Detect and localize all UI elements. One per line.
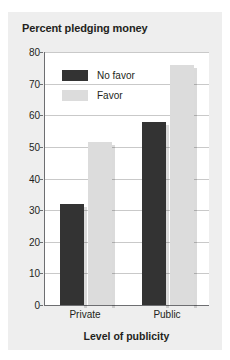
- y-tick-label: 10: [29, 268, 40, 279]
- bar-private-favor: [88, 142, 112, 305]
- bar-public-no-favor: [142, 122, 166, 305]
- legend-label-no-favor: No favor: [97, 70, 135, 81]
- bar-shadow: [194, 68, 197, 308]
- legend-item: Favor: [62, 86, 154, 104]
- legend-item: No favor: [62, 66, 154, 84]
- bar-shadow: [112, 145, 115, 308]
- y-tick-label: 50: [29, 141, 40, 152]
- x-tick-label: Public: [153, 309, 180, 320]
- y-tick-mark: [40, 273, 43, 274]
- x-tick-label: Private: [69, 309, 100, 320]
- y-tick-mark: [40, 179, 43, 180]
- bar-shadow: [166, 125, 169, 308]
- legend-label-favor: Favor: [97, 90, 123, 101]
- legend-swatch-favor: [62, 90, 88, 101]
- y-tick-mark: [40, 115, 43, 116]
- y-tick-label: 70: [29, 78, 40, 89]
- y-tick-mark: [40, 242, 43, 243]
- y-tick-label: 20: [29, 236, 40, 247]
- y-tick-mark: [40, 84, 43, 85]
- y-tick-label: 40: [29, 173, 40, 184]
- chart-legend: No favor Favor: [62, 66, 154, 106]
- bar-private-no-favor: [60, 204, 84, 305]
- page-title: Percent pledging money: [22, 22, 148, 34]
- y-tick-mark: [40, 210, 43, 211]
- bar-public-favor: [170, 65, 194, 305]
- y-tick-mark: [40, 305, 43, 306]
- y-tick-label: 30: [29, 205, 40, 216]
- x-axis-title: Level of publicity: [44, 330, 209, 342]
- gridline: [45, 52, 209, 53]
- y-axis-tick-labels: 01020304050607080: [12, 52, 40, 305]
- y-tick-mark: [40, 52, 43, 53]
- chart-screenshot: Percent pledging money 01020304050607080…: [0, 0, 230, 360]
- y-tick-label: 80: [29, 47, 40, 58]
- y-tick-mark: [40, 147, 43, 148]
- x-axis-tick-labels: PrivatePublic: [44, 309, 209, 323]
- legend-swatch-no-favor: [62, 70, 88, 81]
- bar-shadow: [84, 207, 87, 308]
- y-tick-label: 60: [29, 110, 40, 121]
